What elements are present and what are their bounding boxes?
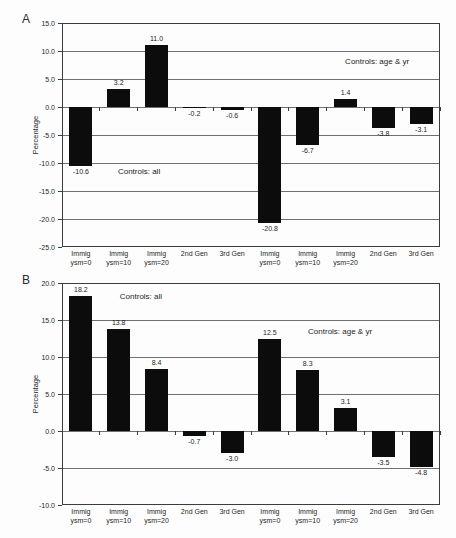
category-axis-tick — [251, 431, 252, 435]
bar — [410, 431, 433, 467]
bar-value-label: -4.8 — [403, 469, 439, 477]
bar — [69, 296, 92, 431]
y-tick-label: 15.0 — [25, 316, 55, 325]
bar — [296, 370, 319, 431]
bar — [372, 431, 395, 457]
y-axis-tick — [58, 283, 62, 284]
category-axis-tick — [62, 431, 63, 435]
panel-b: B Percentage -10.0-5.00.05.010.015.020.0… — [0, 0, 456, 538]
two-panel-bar-chart-figure: A Percentage -25.0-20.0-15.0-10.0-5.00.0… — [0, 0, 456, 538]
bar — [107, 329, 130, 431]
annotation-controls-all: Controls: all — [120, 292, 162, 301]
y-tick-label: 10.0 — [25, 353, 55, 362]
bar-value-label: -3.0 — [214, 455, 250, 463]
y-axis-tick — [58, 394, 62, 395]
y-tick-label: 20.0 — [25, 279, 55, 288]
bar-value-label: 12.5 — [252, 329, 288, 337]
bar — [334, 408, 357, 431]
category-axis-tick — [326, 431, 327, 435]
bar-value-label: 3.1 — [328, 398, 364, 406]
bar — [221, 431, 244, 453]
y-axis-tick — [58, 468, 62, 469]
y-axis-tick — [58, 505, 62, 506]
category-axis-tick — [364, 431, 365, 435]
category-axis-tick — [99, 431, 100, 435]
y-axis-tick — [58, 320, 62, 321]
gridline — [63, 468, 439, 469]
y-tick-label: 0.0 — [25, 427, 55, 436]
bar — [183, 431, 206, 436]
bar-value-label: -0.7 — [176, 438, 212, 446]
y-tick-label: -10.0 — [25, 501, 55, 510]
annotation-controls-age-yr: Controls: age & yr — [308, 327, 372, 336]
category-axis-tick — [440, 431, 441, 435]
category-axis-tick — [402, 431, 403, 435]
bar-value-label: 8.4 — [139, 359, 175, 367]
bar — [145, 369, 168, 431]
category-axis-tick — [213, 431, 214, 435]
y-axis-tick — [58, 357, 62, 358]
bar-value-label: -3.5 — [365, 459, 401, 467]
category-axis-tick — [175, 431, 176, 435]
category-axis-tick — [288, 431, 289, 435]
bar — [258, 339, 281, 432]
bar-value-label: 18.2 — [63, 286, 99, 294]
bar-value-label: 13.8 — [101, 319, 137, 327]
y-tick-label: -5.0 — [25, 464, 55, 473]
y-tick-label: 5.0 — [25, 390, 55, 399]
x-category-label: 3rd Gen — [398, 508, 444, 517]
bar-value-label: 8.3 — [290, 360, 326, 368]
category-axis-tick — [137, 431, 138, 435]
